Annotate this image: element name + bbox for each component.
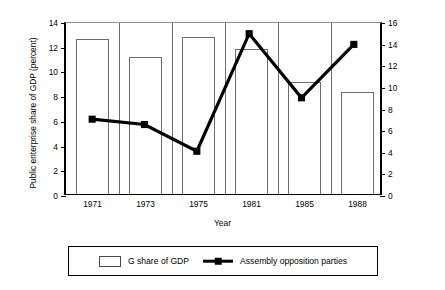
x-axis-tick-label: 1971 [83, 199, 102, 209]
x-axis-tick-label: 1975 [189, 199, 208, 209]
y-axis-right-tick-label: 0 [388, 191, 393, 201]
x-axis-tick-label: 1981 [242, 199, 261, 209]
y-axis-right-tick-label: 10 [388, 83, 397, 93]
y-axis-right-tick [380, 174, 385, 175]
line-marker [193, 148, 200, 155]
x-axis-tick-label: 1988 [348, 199, 367, 209]
x-axis-tick-label: 1985 [295, 199, 314, 209]
x-axis-title: Year [0, 218, 445, 228]
y-axis-right-tick-label: 8 [388, 105, 393, 115]
y-axis-left-tick-label: 2 [53, 166, 58, 176]
line-marker [89, 116, 96, 123]
y-axis-left-title: Public enterprise share of GDP (percent) [28, 18, 38, 208]
y-axis-right-tick [380, 23, 385, 24]
y-axis-right-tick-label: 14 [388, 40, 397, 50]
y-axis-right-tick [380, 66, 385, 67]
y-axis-left-tick-label: 14 [49, 18, 58, 28]
legend-item-line: Assembly opposition parties [203, 256, 347, 266]
line-marker [141, 121, 148, 128]
y-axis-right-tick [380, 88, 385, 89]
chart-legend: G share of GDP Assembly opposition parti… [68, 246, 378, 276]
y-axis-right-tick-label: 6 [388, 126, 393, 136]
y-axis-left-tick-label: 4 [53, 142, 58, 152]
y-axis-left-tick-label: 6 [53, 117, 58, 127]
chart-figure: Public enterprise share of GDP (percent)… [0, 0, 445, 290]
legend-label-line: Assembly opposition parties [240, 256, 347, 266]
y-axis-right-tick-label: 4 [388, 148, 393, 158]
line-marker [298, 94, 305, 101]
line-path [92, 34, 354, 152]
legend-bar-swatch-icon [99, 256, 121, 267]
y-axis-left-tick-label: 10 [49, 67, 58, 77]
plot-area: 02468101214 0246810121416 19711973197519… [64, 22, 382, 195]
y-axis-right-tick-label: 2 [388, 169, 393, 179]
line-marker [246, 30, 253, 37]
line-marker [350, 41, 357, 48]
y-axis-right-tick [380, 131, 385, 132]
y-axis-left-tick-label: 8 [53, 92, 58, 102]
y-axis-left-tick-label: 12 [49, 43, 58, 53]
y-axis-right-tick [380, 153, 385, 154]
x-axis-tick-label: 1973 [136, 199, 155, 209]
line-series [66, 23, 380, 194]
legend-line-swatch-icon [203, 257, 233, 266]
y-axis-right-tick-label: 12 [388, 61, 397, 71]
legend-item-bar: G share of GDP [99, 256, 189, 267]
y-axis-left-tick [61, 196, 66, 197]
y-axis-right-tick [380, 110, 385, 111]
y-axis-right-tick-label: 16 [388, 18, 397, 28]
y-axis-right-tick [380, 45, 385, 46]
legend-label-bar: G share of GDP [128, 256, 189, 266]
y-axis-left-tick-label: 0 [53, 191, 58, 201]
y-axis-right-tick [380, 196, 385, 197]
